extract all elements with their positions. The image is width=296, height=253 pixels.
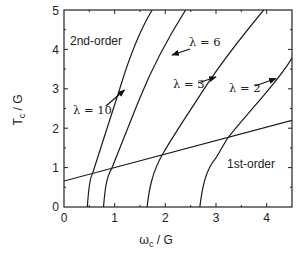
label-lambda-10: λ = 10 (73, 103, 112, 117)
ytick-3: 3 (52, 82, 59, 96)
ytick-5: 5 (52, 4, 59, 18)
y-tick-labels: 0 1 2 3 4 5 (52, 4, 59, 215)
xtick-4: 4 (263, 211, 270, 225)
x-tick-labels: 0 1 2 3 4 (61, 211, 271, 225)
xtick-0: 0 (61, 211, 68, 225)
ytick-1: 1 (52, 161, 59, 175)
ytick-4: 4 (52, 43, 59, 57)
label-lambda-2: λ = 2 (229, 81, 261, 95)
xtick-2: 2 (162, 211, 169, 225)
ytick-2: 2 (52, 122, 59, 136)
region-label-2nd-order: 2nd-order (70, 34, 122, 48)
xtick-1: 1 (111, 211, 118, 225)
y-axis-label: Tc / G (11, 94, 27, 125)
xtick-3: 3 (213, 211, 220, 225)
label-lambda-6: λ = 6 (189, 35, 221, 49)
region-label-1st-order: 1st-order (227, 157, 275, 171)
x-axis-label: ωc / G (139, 233, 173, 249)
ytick-0: 0 (52, 200, 59, 214)
arrow-lambda-6 (172, 49, 190, 55)
label-lambda-3: λ = 3 (173, 77, 205, 91)
phase-diagram-chart: 0 1 2 3 4 0 1 2 3 4 5 ωc / G Tc / G 2nd-… (0, 0, 296, 253)
